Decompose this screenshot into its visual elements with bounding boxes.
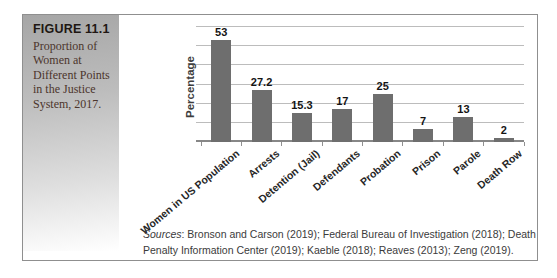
x-axis-tick: [483, 142, 484, 146]
category-slot: 25Probation: [363, 27, 403, 142]
caption-line: Women at: [33, 53, 111, 67]
x-axis-tick: [362, 142, 363, 146]
x-axis-tick: [281, 142, 282, 146]
category-slot: 53Women in US Population: [201, 27, 241, 142]
bar: [292, 113, 312, 142]
bar: [413, 129, 433, 142]
figure-box: FIGURE 11.1 Proportion of Women at Diffe…: [22, 14, 538, 261]
x-axis-tick: [201, 142, 202, 146]
caption-line: Proportion of: [33, 39, 111, 53]
sources-line1: : Bronson and Carson (2019); Federal Bur…: [182, 228, 536, 240]
sources-prefix: Sources: [143, 228, 182, 240]
caption-line: System, 2017.: [33, 97, 111, 111]
category-slot: 2Death Row: [484, 27, 524, 142]
x-axis-category-label: Probation: [357, 147, 402, 188]
sources-line2: Penalty Information Center (2019); Kaebl…: [143, 244, 514, 256]
caption-line: Different Points: [33, 68, 111, 82]
bar-value-label: 2: [484, 124, 524, 136]
category-slot: 17Defendants: [322, 27, 362, 142]
caption-sidebar: FIGURE 11.1 Proportion of Women at Diffe…: [23, 15, 119, 251]
bar-value-label: 13: [443, 103, 483, 115]
category-slot: 27.2Arrests: [241, 27, 281, 142]
x-axis-tick: [322, 142, 323, 146]
bar-value-label: 25: [363, 80, 403, 92]
x-axis-tick: [524, 142, 525, 146]
x-axis-category-label: Women in US Population: [138, 147, 241, 236]
bar-value-label: 17: [322, 95, 362, 107]
y-axis-label: Percentage: [184, 56, 196, 118]
category-slot: 15.3Detention (Jail): [282, 27, 322, 142]
plot-area: 53Women in US Population27.2Arrests15.3D…: [201, 27, 524, 142]
x-axis-tick: [402, 142, 403, 146]
bar: [332, 109, 352, 142]
bar: [252, 90, 272, 142]
category-slot: 13Parole: [443, 27, 483, 142]
x-axis-category-label: Prison: [410, 147, 443, 177]
bar: [453, 117, 473, 142]
bar-chart: Percentage 53Women in US Population27.2A…: [201, 27, 524, 142]
category-slot: 7Prison: [403, 27, 443, 142]
figure-number-label: FIGURE 11.1: [33, 22, 111, 36]
bar: [373, 94, 393, 142]
bar-value-label: 7: [403, 115, 443, 127]
figure-caption: FIGURE 11.1 Proportion of Women at Diffe…: [23, 15, 119, 111]
bar-value-label: 15.3: [282, 99, 322, 111]
caption-line: in the Justice: [33, 82, 111, 96]
bar-value-label: 53: [201, 26, 241, 38]
x-axis-category-label: Parole: [451, 147, 483, 177]
x-axis-category-label: Arrests: [245, 147, 281, 180]
x-axis-tick: [443, 142, 444, 146]
bar: [211, 40, 231, 142]
bar-value-label: 27.2: [241, 76, 281, 88]
bar: [494, 138, 514, 142]
x-axis-category-label: Death Row: [474, 147, 523, 191]
page-canvas: FIGURE 11.1 Proportion of Women at Diffe…: [0, 0, 557, 278]
x-axis-tick: [241, 142, 242, 146]
sources-note: Sources: Bronson and Carson (2019); Fede…: [143, 227, 547, 258]
bar-slots: 53Women in US Population27.2Arrests15.3D…: [201, 27, 524, 142]
